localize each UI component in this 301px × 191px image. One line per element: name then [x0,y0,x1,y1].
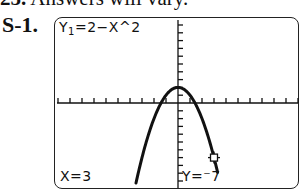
equation-label: Y1=2−X^2 [59,20,141,39]
equation-prefix: Y [59,19,68,35]
graph-plot [55,18,300,190]
previous-answer-text: Answers will vary. [30,0,188,10]
trace-cursor-icon [208,152,220,164]
equation-body: =2−X^2 [75,19,141,35]
exercise-label: S-1. [2,13,38,37]
trace-y-value: Y=⁻7 [182,169,221,183]
axes [57,20,298,188]
trace-x-value: X=3 [60,169,92,183]
equation-subscript: 1 [68,26,75,37]
previous-answer-line: 25. Answers will vary. [0,0,188,9]
previous-exercise-number: 25. [0,0,26,10]
calculator-screen: Y1=2−X^2 X=3 Y=⁻7 [54,17,299,189]
